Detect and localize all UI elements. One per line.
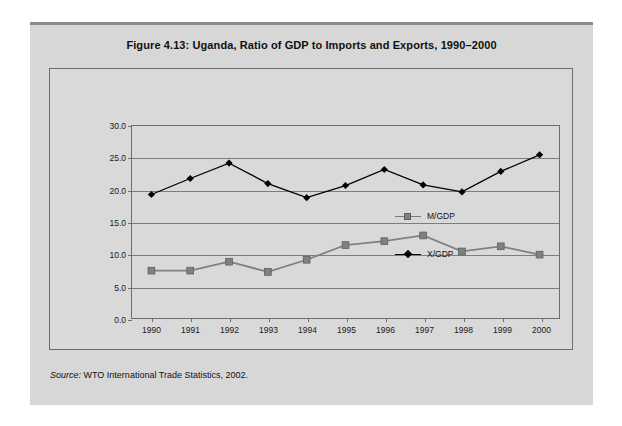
source-note: Source: WTO International Trade Statisti… [50, 370, 248, 380]
figure-caption: Figure 4.13: Uganda, Ratio of GDP to Imp… [30, 39, 593, 51]
data-point-marker [497, 168, 504, 175]
source-label: Source: [50, 370, 81, 380]
x-axis-tick-label: 2000 [532, 325, 551, 335]
x-axis-tick-label: 1990 [142, 325, 161, 335]
x-axis-tick-label: 1997 [415, 325, 434, 335]
data-point-marker [458, 188, 465, 195]
x-axis-tick-mark [308, 318, 309, 322]
legend-label-xgdp: X/GDP [427, 249, 453, 259]
data-point-marker [148, 191, 155, 198]
legend-item-mgdp[interactable]: M/GDP [395, 211, 455, 221]
data-point-marker [148, 267, 155, 274]
x-axis-tick-mark [152, 318, 153, 322]
x-axis-tick-mark [191, 318, 192, 322]
figure-container: Figure 4.13: Uganda, Ratio of GDP to Imp… [30, 22, 593, 405]
y-axis-tick-label: 25.0 [109, 153, 126, 163]
x-axis-tick-label: 1996 [376, 325, 395, 335]
x-axis-tick-mark [230, 318, 231, 322]
y-axis-tick-mark [128, 320, 132, 321]
x-axis-tick-mark [464, 318, 465, 322]
data-point-marker [303, 194, 310, 201]
data-point-marker [187, 267, 194, 274]
x-axis-tick-mark [425, 318, 426, 322]
data-point-marker [459, 248, 466, 255]
y-axis-tick-label: 0.0 [114, 315, 126, 325]
data-point-marker [342, 242, 349, 249]
x-axis-tick-label: 1995 [337, 325, 356, 335]
data-point-marker [497, 243, 504, 250]
square-marker-icon [395, 212, 421, 221]
data-point-marker [303, 256, 310, 263]
series-line-x-gdp [151, 155, 539, 198]
data-point-marker [342, 182, 349, 189]
legend-item-xgdp[interactable]: X/GDP [395, 249, 453, 259]
plot-area: 0.05.010.015.020.025.030.0 1990199119921… [131, 125, 560, 319]
x-axis-tick-label: 1998 [454, 325, 473, 335]
data-point-marker [225, 160, 232, 167]
y-axis-tick-label: 20.0 [109, 186, 126, 196]
x-axis-tick-label: 1992 [220, 325, 239, 335]
x-axis-tick-label: 1991 [181, 325, 200, 335]
data-point-marker [187, 175, 194, 182]
chart-panel: 0.05.010.015.020.025.030.0 1990199119921… [49, 68, 573, 350]
x-axis-tick-label: 1994 [298, 325, 317, 335]
y-axis-tick-label: 5.0 [114, 283, 126, 293]
source-text: WTO International Trade Statistics, 2002… [81, 370, 248, 380]
data-point-marker [420, 181, 427, 188]
x-axis-tick-mark [347, 318, 348, 322]
x-axis-tick-mark [503, 318, 504, 322]
x-axis-tick-label: 1993 [259, 325, 278, 335]
y-axis-tick-label: 10.0 [109, 250, 126, 260]
data-point-marker [226, 258, 233, 265]
y-axis-tick-label: 30.0 [109, 121, 126, 131]
x-axis-tick-mark [542, 318, 543, 322]
data-point-marker [536, 151, 543, 158]
x-axis-tick-label: 1999 [493, 325, 512, 335]
x-axis-tick-mark [386, 318, 387, 322]
data-point-marker [264, 269, 271, 276]
x-axis-tick-mark [269, 318, 270, 322]
diamond-marker-icon [395, 250, 421, 259]
data-point-marker [381, 166, 388, 173]
y-axis-tick-label: 15.0 [109, 218, 126, 228]
series-layer [132, 126, 559, 318]
data-point-marker [264, 180, 271, 187]
legend-label-mgdp: M/GDP [427, 211, 455, 221]
data-point-marker [420, 232, 427, 239]
data-point-marker [536, 251, 543, 258]
data-point-marker [381, 238, 388, 245]
figure-top-rule [30, 22, 593, 25]
series-line-m-gdp [151, 235, 539, 271]
